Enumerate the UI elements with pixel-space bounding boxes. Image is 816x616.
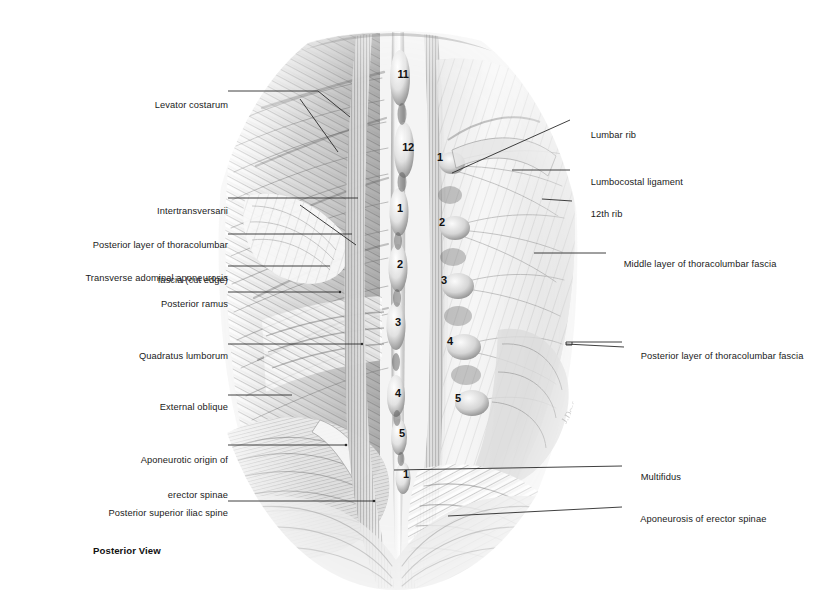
lumbocostal-ligament — [448, 117, 540, 140]
label-aponeurosis-of-erector-spinae: Aponeurosis of erector spinae — [630, 502, 766, 537]
transverse-number-4: 5 — [448, 392, 468, 404]
label-quadratus-lumborum-text: Quadratus lumborum — [139, 351, 228, 361]
right-fascia-and-transverse-processes — [408, 58, 575, 588]
leader-posterior-layer-fascia-fork-b — [566, 344, 624, 347]
leader-levator-costarum-branch-a — [318, 91, 350, 117]
spinous-number-6: 5 — [392, 427, 412, 439]
leader-end-dots — [339, 291, 376, 503]
spinous-number-4: 3 — [388, 316, 408, 328]
transverse-number-1: 2 — [432, 216, 452, 228]
label-posterior-layer-of-thoracolumbar-fascia: Posterior layer of thoracolumbar fascia — [630, 339, 804, 374]
label-posterior-superior-iliac-spine-text: Posterior superior iliac spine — [108, 508, 228, 518]
sacral-aponeurosis-fan — [230, 496, 562, 598]
leader-levator-costarum-branch-b — [300, 99, 338, 152]
label-quadratus-lumborum: Quadratus lumborum — [128, 339, 228, 374]
label-middle-layer-of-thoracolumbar-fascia-text: Middle layer of thoracolumbar fascia — [624, 259, 777, 269]
label-lumbocostal-ligament-text: Lumbocostal ligament — [591, 177, 683, 187]
spinous-number-3: 2 — [390, 258, 410, 270]
spinous-number-5: 4 — [388, 387, 408, 399]
leader-12th-rib — [542, 199, 572, 201]
spinous-number-0: 11 — [393, 68, 413, 80]
label-aponeurosis-of-erector-spinae-text: Aponeurosis of erector spinae — [640, 514, 766, 524]
label-external-oblique-text: External oblique — [160, 402, 228, 412]
artist-signature: J.Dorf — [559, 400, 580, 425]
label-posterior-ramus: Posterior ramus — [150, 287, 228, 322]
anatomy-plate: J.Dorf — [0, 0, 816, 616]
label-lumbar-rib: Lumbar rib — [580, 118, 636, 153]
label-lumbocostal-ligament: Lumbocostal ligament — [580, 165, 683, 200]
leader-aponeurosis-of-erector-spinae — [448, 507, 622, 516]
leader-posterior-layer-fascia-fork-a — [566, 342, 572, 345]
label-fascia-line1: Posterior layer of thoracolumbar — [93, 240, 228, 252]
label-lumbar-rib-text: Lumbar rib — [591, 130, 636, 140]
label-aponeurotic-origin-line1: Aponeurotic origin of — [141, 455, 228, 467]
twelfth-rib — [452, 138, 556, 176]
label-posterior-ramus-text: Posterior ramus — [161, 299, 228, 309]
label-posterior-superior-iliac-spine: Posterior superior iliac spine — [98, 496, 228, 531]
leader-multifidus — [394, 466, 622, 470]
label-levator-costarum-text: Levator costarum — [155, 100, 228, 110]
label-12th-rib: 12th rib — [580, 197, 622, 232]
external-oblique-aponeurosis — [206, 417, 389, 560]
view-caption: Posterior View — [93, 545, 161, 556]
erector-spinae-and-spine — [344, 32, 447, 588]
label-multifidus: Multifidus — [630, 460, 681, 495]
transverse-number-2: 3 — [434, 274, 454, 286]
label-12th-rib-text: 12th rib — [591, 209, 623, 219]
spinous-number-7: 1 — [396, 468, 416, 480]
fascia-cut-edge-flap — [243, 194, 348, 284]
label-levator-costarum: Levator costarum — [144, 88, 228, 123]
label-posterior-layer-of-thoracolumbar-fascia-text: Posterior layer of thoracolumbar fascia — [641, 351, 804, 361]
spinous-number-2: 1 — [390, 202, 410, 214]
leader-intertransversarii-branch — [300, 205, 356, 245]
label-intertransversarii-text: Intertransversarii — [157, 206, 228, 216]
label-middle-layer-of-thoracolumbar-fascia: Middle layer of thoracolumbar fascia — [613, 247, 776, 282]
transverse-number-3: 4 — [440, 335, 460, 347]
label-multifidus-text: Multifidus — [641, 472, 681, 482]
leader-lines — [228, 91, 624, 516]
label-transverse-abdominal-aponeurosis-text: Transverse adominal aponeurosis — [85, 273, 228, 283]
left-superficial-muscle-mass — [225, 33, 388, 508]
transverse-number-0: 1 — [430, 151, 450, 163]
leader-lumbar-rib — [452, 120, 570, 173]
label-external-oblique: External oblique — [149, 390, 228, 425]
spinous-number-1: 12 — [398, 141, 418, 153]
